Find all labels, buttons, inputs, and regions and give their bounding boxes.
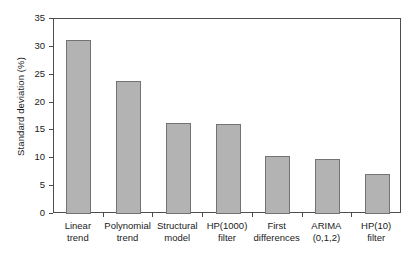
y-tick-label: 25 — [17, 68, 45, 79]
x-tick-mark — [252, 213, 253, 217]
bar — [365, 174, 390, 214]
x-tick-mark — [202, 213, 203, 217]
x-tick-mark — [103, 213, 104, 217]
y-tick-label: 10 — [17, 151, 45, 162]
bar — [315, 159, 340, 214]
bar — [265, 156, 290, 215]
y-tick-label: 35 — [17, 12, 45, 23]
y-tick-label: 0 — [17, 207, 45, 218]
bar — [166, 123, 191, 214]
y-tick-label: 15 — [17, 123, 45, 134]
y-tick-mark — [49, 213, 53, 214]
x-tick-mark — [302, 213, 303, 217]
bar — [116, 81, 141, 214]
y-tick-label: 30 — [17, 40, 45, 51]
x-tick-mark — [152, 213, 153, 217]
bar — [66, 40, 91, 214]
y-tick-label: 20 — [17, 96, 45, 107]
bar-chart: Standard deviation (%) 05101520253035 Li… — [0, 0, 415, 268]
bar — [216, 124, 241, 214]
plot-area — [53, 18, 401, 213]
x-tick-label: HP(10)filter — [345, 220, 407, 243]
x-tick-label-line: HP(10) — [345, 220, 407, 232]
y-tick-label: 5 — [17, 179, 45, 190]
x-tick-mark — [351, 213, 352, 217]
x-tick-label-line: filter — [345, 232, 407, 244]
